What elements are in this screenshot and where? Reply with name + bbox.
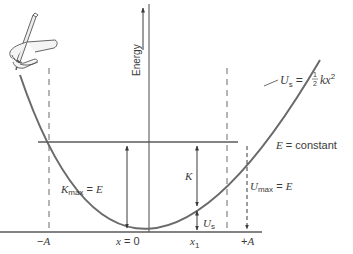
energy-diagram: Energy Us= 1 2 kx2 E = constant Kmax = E…	[0, 0, 353, 254]
svg-text:1: 1	[313, 71, 317, 78]
umax-label: Umax = E	[250, 180, 293, 194]
tick-label-pos-a: +A	[241, 235, 254, 247]
hand-with-pencil-icon	[10, 13, 57, 70]
us-label: Us	[203, 217, 215, 231]
tick-label-x1: x1	[189, 235, 200, 250]
tick-label-neg-a: −A	[37, 235, 50, 247]
kmax-label: Kmax = E	[60, 183, 103, 197]
svg-text:kx2: kx2	[320, 72, 336, 87]
k-label: K	[184, 170, 193, 182]
tick-label-zero: x = 0	[115, 235, 140, 247]
curve-label-leader	[264, 80, 278, 86]
svg-text:Us=: Us=	[280, 73, 303, 89]
svg-text:2: 2	[313, 80, 317, 87]
energy-line-label: E = constant	[275, 139, 337, 151]
y-axis-label: Energy	[131, 44, 142, 76]
potential-energy-curve	[20, 60, 320, 229]
